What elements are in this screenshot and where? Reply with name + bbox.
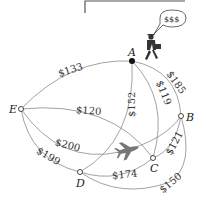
node-e	[19, 107, 24, 112]
edge-label-e-c: $120	[76, 104, 102, 117]
node-c	[151, 156, 156, 161]
edge-label-a-d: $152	[126, 92, 137, 117]
speech-bubble: $$$	[154, 10, 186, 34]
edge-a-d	[80, 61, 132, 172]
node-label-a: A	[127, 46, 136, 59]
edge-label-a-e: $133	[57, 61, 85, 79]
edge-label-d-c: $174	[112, 168, 138, 181]
edge-label-c-b: $121	[163, 129, 185, 157]
node-label-e: E	[8, 103, 17, 116]
route-graph: $133 $185 $119 $152 $120 $200 $199 $174 …	[0, 0, 206, 200]
airplane-icon	[113, 138, 141, 162]
node-b	[179, 114, 184, 119]
businessman-icon	[145, 34, 161, 60]
node-label-d: D	[75, 177, 85, 190]
edge-label-e-b: $200	[54, 136, 81, 153]
edge-label-e-d: $199	[35, 145, 63, 167]
speech-bubble-text: $$$	[164, 15, 179, 24]
node-label-c: C	[150, 162, 159, 175]
node-d	[78, 170, 83, 175]
node-label-b: B	[185, 111, 194, 124]
edge-label-d-b: $150	[157, 170, 184, 195]
